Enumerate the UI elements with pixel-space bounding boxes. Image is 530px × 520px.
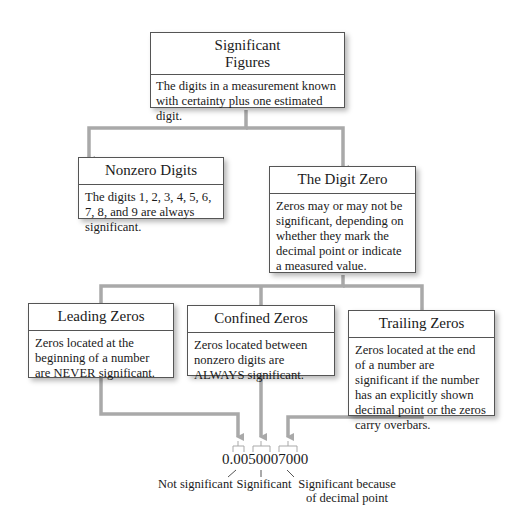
example-number: 0.0050007000 xyxy=(222,451,308,468)
confined-zeros-description: Zeros located between nonzero digits are… xyxy=(188,333,334,388)
leading-zeros-description: Zeros located at the beginning of a numb… xyxy=(29,331,173,386)
digit-zero-title: The Digit Zero xyxy=(270,167,415,194)
label-not-significant: Not significant xyxy=(158,477,248,491)
root-description: The digits in a measurement known with c… xyxy=(151,75,344,128)
box-confined-zeros: Confined Zeros Zeros located between non… xyxy=(187,305,335,376)
box-trailing-zeros: Trailing Zeros Zeros located at the end … xyxy=(348,310,495,416)
nonzero-digits-description: The digits 1, 2, 3, 4, 5, 6, 7, 8, and 9… xyxy=(79,185,223,240)
label-significant-decimal-line2: of decimal point xyxy=(292,491,402,505)
root-title: Significant Figures xyxy=(151,33,344,75)
root-title-line2: Figures xyxy=(155,54,340,71)
box-digit-zero: The Digit Zero Zeros may or may not be s… xyxy=(269,166,416,273)
leading-zeros-title: Leading Zeros xyxy=(29,304,173,331)
trailing-zeros-description: Zeros located at the end of a number are… xyxy=(349,338,494,438)
trailing-zeros-title: Trailing Zeros xyxy=(349,311,494,338)
root-box-significant-figures: Significant Figures The digits in a meas… xyxy=(150,32,345,108)
nonzero-digits-title: Nonzero Digits xyxy=(79,158,223,185)
digit-zero-description: Zeros may or may not be significant, dep… xyxy=(270,194,415,279)
confined-zeros-title: Confined Zeros xyxy=(188,306,334,333)
box-nonzero-digits: Nonzero Digits The digits 1, 2, 3, 4, 5,… xyxy=(78,157,224,219)
label-significant-decimal-line1: Significant because xyxy=(292,477,402,491)
root-title-line1: Significant xyxy=(155,37,340,54)
label-significant: Significant xyxy=(236,477,292,491)
box-leading-zeros: Leading Zeros Zeros located at the begin… xyxy=(28,303,174,378)
label-significant-decimal: Significant because of decimal point xyxy=(292,477,402,505)
